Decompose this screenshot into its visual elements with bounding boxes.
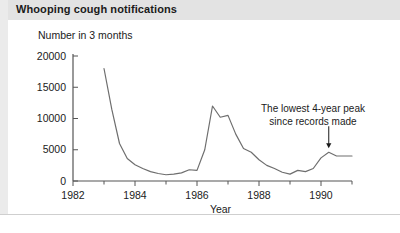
x-tick-label: 1990	[309, 189, 333, 201]
chart-figure: Whooping cough notifications Number in 3…	[0, 0, 400, 233]
x-axis-title: Year	[210, 203, 232, 214]
y-tick-label: 15000	[37, 81, 66, 93]
y-tick-label: 0	[60, 175, 66, 187]
chart-canvas: Number in 3 months The lowest 4-year pea…	[0, 20, 400, 214]
y-tick-label: 5000	[43, 143, 67, 155]
y-tick-label: 10000	[37, 112, 66, 124]
annotation-line-2: since records made	[248, 115, 378, 128]
chart-annotation: The lowest 4-year peak since records mad…	[248, 102, 378, 128]
x-tick-label: 1986	[185, 189, 209, 201]
page-title: Whooping cough notifications	[16, 3, 177, 15]
y-axis-title: Number in 3 months	[38, 29, 133, 41]
annotation-arrow-head	[326, 143, 331, 148]
annotation-line-1: The lowest 4-year peak	[248, 102, 378, 115]
x-tick-label: 1982	[61, 189, 85, 201]
x-tick-label: 1988	[247, 189, 271, 201]
x-tick-label: 1984	[123, 189, 147, 201]
footer-area	[0, 215, 400, 233]
y-tick-label: 20000	[37, 50, 66, 62]
figure-title-bar: Whooping cough notifications	[8, 0, 400, 20]
